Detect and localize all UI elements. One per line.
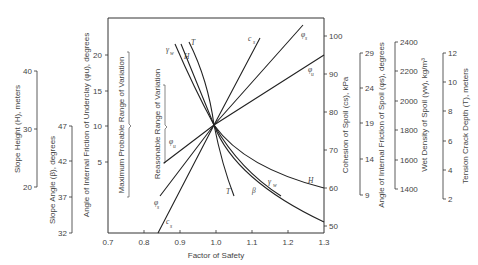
- svg-text:u: u: [173, 143, 176, 149]
- tension-crack-tick: 12: [448, 49, 457, 58]
- spoil-friction-tick: 24: [365, 84, 374, 93]
- cohesion-tick: 90: [329, 70, 338, 79]
- tension-crack-tick: 10: [448, 78, 457, 87]
- curve-beta: [214, 125, 324, 222]
- cohesion-tick: 70: [329, 146, 338, 155]
- wet-density-title: Wet Density of Spoil (γw), kg/m³: [420, 58, 429, 172]
- wet-density-tick: 1800: [400, 126, 418, 135]
- curve-phi-s: [160, 25, 303, 196]
- x-tick: 0.8: [138, 238, 150, 247]
- tension-crack-tick: 6: [448, 137, 453, 146]
- svg-text:s: s: [253, 39, 255, 45]
- wet-density-tick: 1600: [400, 156, 418, 165]
- x-tick: 1.0: [210, 238, 222, 247]
- curve-c-s: [158, 38, 260, 233]
- x-tick: 0.9: [174, 238, 186, 247]
- wet-density-axis: [395, 42, 398, 189]
- tension-crack-title: Tension Crack Depth (T), meters: [461, 68, 470, 184]
- svg-text:H: H: [183, 52, 190, 61]
- slope-height-tick: 20: [23, 183, 32, 192]
- slope-height-tick: 40: [23, 67, 32, 76]
- svg-text:T: T: [191, 38, 196, 47]
- tension-crack-tick: 2: [448, 195, 453, 204]
- tension-crack-tick: 8: [448, 107, 453, 116]
- svg-text:β: β: [251, 186, 256, 195]
- curve-labels: γ w H T c s φ s φ u φ u φ s c s T β γ w …: [154, 30, 314, 229]
- svg-text:γ: γ: [268, 177, 272, 186]
- sensitivity-chart: 0.7 0.8 0.9 1.0 1.1 1.2 1.3 Factor of Sa…: [0, 0, 478, 265]
- curve-H: [181, 44, 324, 188]
- underclay-tick: 20: [93, 51, 102, 60]
- x-axis-title: Factor of Safety: [188, 251, 244, 260]
- svg-text:s: s: [157, 204, 159, 210]
- svg-text:w: w: [273, 182, 277, 188]
- underclay-title: Angle of Internal Friction of Underclay …: [82, 33, 91, 217]
- spoil-friction-tick: 19: [365, 119, 374, 128]
- spoil-friction-tick: 29: [365, 49, 374, 58]
- slope-angle-tick: 42: [58, 157, 67, 166]
- svg-text:s: s: [170, 223, 172, 229]
- x-tick: 1.2: [282, 238, 294, 247]
- cohesion-tick: 80: [329, 108, 338, 117]
- svg-text:c: c: [248, 34, 252, 43]
- wet-density-tick: 1400: [400, 185, 418, 194]
- wet-density-tick: 2000: [400, 97, 418, 106]
- slope-height-axis: [34, 71, 37, 187]
- spoil-friction-title: Angle of Internal Friction of Spoil (φs)…: [377, 42, 386, 208]
- wet-density-tick: 2200: [400, 67, 418, 76]
- wet-density-tick: 2400: [400, 38, 418, 47]
- svg-text:u: u: [311, 71, 314, 77]
- slope-height-tick: 30: [23, 125, 32, 134]
- x-tick: 1.3: [318, 238, 330, 247]
- spoil-friction-axis: [360, 53, 363, 195]
- spoil-friction-tick: 14: [365, 155, 374, 164]
- slope-angle-tick: 32: [58, 229, 67, 238]
- cohesion-tick: 50: [329, 222, 338, 231]
- x-tick: 0.7: [102, 238, 114, 247]
- cohesion-tick: 100: [329, 32, 343, 41]
- underclay-tick: 5: [98, 158, 103, 167]
- x-tick: 1.1: [246, 238, 258, 247]
- svg-text:w: w: [170, 50, 174, 56]
- max-range-label: Maximum Probable Range of Variation: [117, 57, 126, 194]
- sensitivity-curves: [158, 25, 324, 233]
- cohesion-title: Cohesion of Spoil (cs), kPa: [341, 76, 350, 173]
- slope-height-title: Slope Height (H), meters: [13, 85, 22, 173]
- slope-angle-title: Slope Angle (β), degrees: [48, 136, 57, 224]
- reasonable-range-label: Reasonable Range of Variation: [153, 69, 162, 180]
- svg-text:s: s: [305, 35, 307, 41]
- curve-phi-u: [164, 55, 324, 163]
- spoil-friction-tick: 9: [365, 191, 370, 200]
- svg-text:T: T: [226, 187, 231, 196]
- slope-angle-axis: [69, 126, 72, 233]
- cohesion-tick: 60: [329, 184, 338, 193]
- tension-crack-axis: [443, 53, 446, 199]
- slope-angle-tick: 47: [58, 122, 67, 131]
- underclay-tick: 10: [93, 122, 102, 131]
- underclay-tick: 15: [93, 87, 102, 96]
- slope-angle-tick: 37: [58, 193, 67, 202]
- tension-crack-tick: 4: [448, 166, 453, 175]
- plot-frame: [108, 18, 324, 233]
- svg-text:H: H: [307, 176, 314, 185]
